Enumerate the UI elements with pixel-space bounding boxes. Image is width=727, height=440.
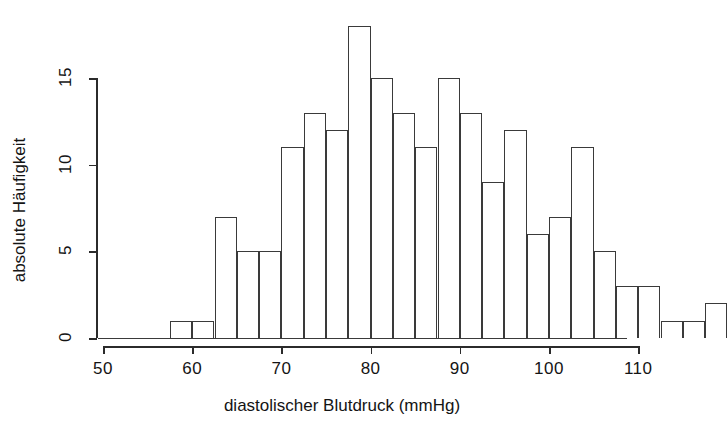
histogram-bar — [348, 26, 370, 338]
x-axis-tick-label: 50 — [78, 359, 128, 379]
bars-baseline — [98, 338, 627, 339]
histogram-bar — [259, 251, 281, 338]
x-axis-tick — [460, 346, 462, 354]
histogram-bar — [683, 321, 705, 338]
y-axis-tick — [89, 165, 97, 167]
y-axis-tick — [89, 251, 97, 253]
x-axis-tick-label: 110 — [613, 359, 663, 379]
x-axis-tick-label: 80 — [346, 359, 396, 379]
x-axis-tick — [281, 346, 283, 354]
histogram-bar — [170, 321, 192, 338]
histogram-bar — [616, 286, 638, 338]
x-axis-title: diastolischer Blutdruck (mmHg) — [0, 396, 684, 416]
histogram-bar — [460, 113, 482, 338]
histogram-bar — [594, 251, 616, 338]
x-axis-tick-label: 60 — [167, 359, 217, 379]
y-axis-line — [96, 78, 98, 338]
histogram-bar — [237, 251, 259, 338]
histogram-bar — [438, 78, 460, 338]
y-axis-tick-label: 15 — [56, 63, 76, 91]
histogram-bar — [527, 234, 549, 338]
x-axis-tick-label: 90 — [435, 359, 485, 379]
histogram-bar — [326, 130, 348, 338]
histogram-bar — [549, 217, 571, 338]
histogram-bar — [482, 182, 504, 338]
y-axis-tick-label: 10 — [56, 150, 76, 178]
histogram-bar — [304, 113, 326, 338]
histogram-bar — [393, 113, 415, 338]
histogram-bar — [571, 147, 593, 338]
histogram-bar — [192, 321, 214, 338]
x-axis-tick-label: 70 — [256, 359, 306, 379]
histogram-bar — [215, 217, 237, 338]
x-axis-tick-label: 100 — [524, 359, 574, 379]
histogram-bar — [415, 147, 437, 338]
histogram-bar — [371, 78, 393, 338]
y-axis-tick — [89, 338, 97, 340]
x-axis-tick — [549, 346, 551, 354]
x-axis-tick — [371, 346, 373, 354]
y-axis-tick-label: 5 — [56, 236, 76, 264]
histogram-bar — [705, 303, 727, 338]
histogram-bar — [504, 130, 526, 338]
x-axis-tick — [638, 346, 640, 354]
histogram-bar — [661, 321, 683, 338]
x-axis-tick — [103, 346, 105, 354]
histogram-bar — [638, 286, 660, 338]
histogram-bar — [281, 147, 303, 338]
y-axis-tick — [89, 78, 97, 80]
y-axis-title: absolute Häufigkeit — [10, 100, 30, 320]
x-axis-tick — [192, 346, 194, 354]
y-axis-tick-label: 0 — [56, 323, 76, 351]
